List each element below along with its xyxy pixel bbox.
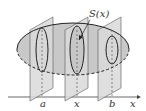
plane-a (30, 17, 53, 101)
plane-label-a: a (40, 98, 46, 109)
cross-section-diagram: S(x) a x b x (0, 0, 146, 111)
x-axis-arrow-icon (137, 95, 141, 99)
axis-label: x (130, 98, 136, 109)
plane-label-b: b (109, 98, 115, 109)
plane-label-x: x (74, 98, 80, 109)
section-label: S(x) (89, 8, 109, 19)
